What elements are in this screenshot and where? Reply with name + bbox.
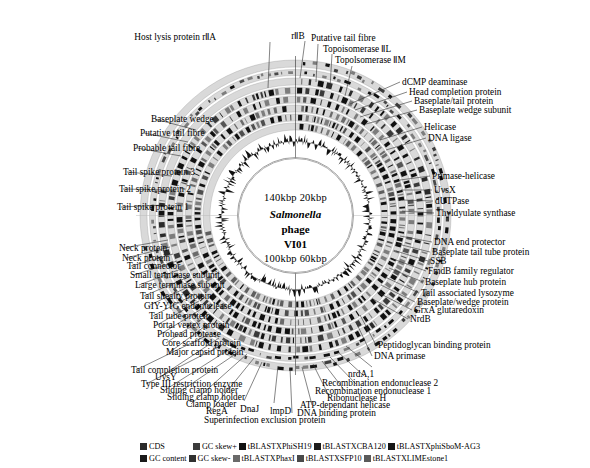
- legend-label: tBLASTXPhiSH19: [248, 442, 312, 451]
- legend-item[interactable]: CDS: [140, 440, 165, 452]
- gene-feature: [317, 81, 324, 88]
- legend: CDSGC skew+tBLASTXPhiSH19tBLASTXCBA120tB…: [140, 440, 460, 464]
- gene-label: Tail spike protein 3: [123, 167, 195, 177]
- gene-feature: [277, 367, 283, 371]
- gene-feature: [285, 310, 289, 316]
- legend-row-1: CDSGC skew+tBLASTXPhiSH19tBLASTXCBA120tB…: [140, 440, 460, 452]
- legend-swatch: [193, 443, 200, 450]
- gene-label: FmdB family regulator: [428, 266, 514, 276]
- legend-label: tBLASTXSFP10: [306, 454, 362, 463]
- gene-feature: [301, 328, 307, 334]
- gene-label: NrdB: [410, 314, 431, 324]
- gene-feature: [277, 345, 282, 351]
- legend-row-2: GC contentGC skew-tBLASTXPhaxItBLASTXSFP…: [140, 452, 460, 464]
- gene-feature: [285, 88, 291, 94]
- gene-feature: [285, 328, 290, 334]
- legend-label: GC skew-: [198, 454, 231, 463]
- legend-swatch: [297, 455, 304, 462]
- legend-label: tBLASTXphiSboM-AG3: [397, 442, 480, 451]
- gene-feature: [305, 88, 309, 94]
- gene-feature: [310, 98, 316, 104]
- gene-label: dUTPase: [435, 196, 469, 206]
- gene-feature: [293, 338, 294, 344]
- gene-feature: [288, 301, 292, 307]
- gene-feature: [280, 319, 285, 325]
- gene-feature: [300, 337, 302, 343]
- gene-feature: [296, 366, 300, 369]
- legend-label: tBLASTXPhaxI: [242, 454, 295, 463]
- gene-label: Putative tail fibre: [140, 128, 205, 138]
- gene-label: Helicase: [424, 122, 456, 132]
- gene-feature: [288, 346, 290, 352]
- gene-label: Peptidoglycan binding protein: [378, 340, 491, 350]
- gene-feature: [303, 62, 306, 65]
- legend-label: GC content: [149, 454, 187, 463]
- gene-feature: [297, 97, 300, 103]
- gene-label: Baseplate hub protein: [425, 277, 506, 287]
- gene-label: Probable tail fibre: [133, 143, 200, 153]
- gene-feature: [304, 71, 307, 74]
- gene-feature: [283, 97, 288, 103]
- gene-label: nrdA,1: [348, 369, 374, 379]
- legend-item[interactable]: tBLASTXPhaxI: [233, 452, 295, 464]
- gene-feature: [298, 320, 299, 326]
- gene-feature: [274, 72, 278, 75]
- legend-item[interactable]: tBLASTXPhiSH19: [239, 440, 312, 452]
- gene-feature: [302, 346, 308, 352]
- legend-label: tBLASTXCBA120: [323, 442, 386, 451]
- gene-feature: [298, 115, 302, 121]
- legend-swatch: [239, 443, 246, 450]
- gene-feature: [293, 356, 298, 359]
- gene-label: Topoisomerase ⅡL: [323, 44, 391, 54]
- gene-label: Baseplate wedge: [151, 114, 214, 124]
- gene-label: Host lysis protein rⅡA: [134, 32, 216, 42]
- legend-item[interactable]: tBLASTXLIMEstone1: [364, 452, 449, 464]
- gene-label: Baseplate wedge subunit: [419, 105, 511, 115]
- gene-label: Topolsomerase ⅡM: [335, 55, 406, 65]
- gene-feature: [303, 97, 307, 103]
- gene-feature: [308, 337, 312, 343]
- gene-feature: [298, 329, 299, 335]
- legend-item[interactable]: GC skew+: [193, 440, 237, 452]
- legend-item[interactable]: tBLASTXCBA120: [314, 440, 386, 452]
- gene-label: Thyldyulate synthase: [436, 208, 515, 218]
- phage-strain: VI01: [128, 238, 463, 250]
- gene-feature: [299, 124, 303, 130]
- legend-swatch: [189, 455, 196, 462]
- gene-feature: [268, 73, 271, 76]
- legend-label: CDS: [149, 442, 165, 451]
- gene-label: Neck protein: [119, 243, 167, 253]
- gene-label: Primase-helicase: [432, 171, 495, 181]
- gene-label: Baseplate tail tube protein: [432, 247, 529, 257]
- gene-label: SSB: [430, 256, 447, 266]
- gene-label: Recombination endonuclease 2: [322, 378, 438, 388]
- gene-feature: [301, 301, 304, 307]
- gene-label: Large terminase subunit: [135, 280, 225, 290]
- legend-swatch: [364, 455, 371, 462]
- gene-feature: [296, 347, 300, 353]
- legend-item[interactable]: tBLASTXSFP10: [297, 452, 362, 464]
- gene-feature: [303, 365, 309, 369]
- gene-label: DNA end protector: [434, 237, 505, 247]
- gene-feature: [282, 106, 287, 112]
- legend-swatch: [140, 443, 147, 450]
- legend-item[interactable]: tBLASTXphiSboM-AG3: [388, 440, 480, 452]
- gene-label: dCMP deaminase: [402, 77, 468, 87]
- legend-label: tBLASTXLIMEstone1: [373, 454, 449, 463]
- gene-label: Small terminase subunit: [130, 270, 220, 280]
- gene-feature: [292, 329, 294, 335]
- gene-feature: [289, 367, 293, 370]
- gene-feature: [304, 310, 309, 316]
- gene-feature: [297, 88, 302, 94]
- gene-feature: [313, 61, 318, 65]
- gene-feature: [301, 106, 304, 112]
- gene-label: UvsX: [434, 185, 456, 195]
- gene-label: Tail shealty protein: [140, 291, 212, 301]
- gene-label: GIY-YIG endonuclease: [144, 301, 232, 311]
- legend-item[interactable]: GC content: [140, 452, 187, 464]
- gene-feature: [288, 71, 293, 74]
- gene-feature: [266, 363, 270, 367]
- gene-label: DNA ligase: [428, 133, 472, 143]
- legend-item[interactable]: GC skew-: [189, 452, 231, 464]
- gene-feature: [304, 357, 308, 360]
